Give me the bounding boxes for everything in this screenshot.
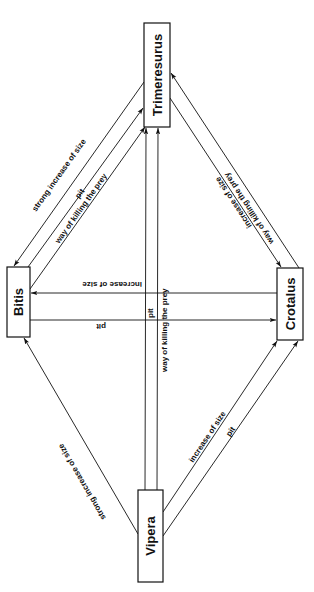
edge-trimeresurus-to-bitis-size	[14, 82, 144, 266]
label-crotalus-to-trimeresurus-kill: way of killing the prey	[222, 171, 276, 247]
label-vipera-to-crotalus-pit: pit	[224, 425, 237, 438]
label-crotalus-to-bitis-size: increase of size	[82, 280, 142, 289]
edge-bitis-to-trimeresurus-kill	[30, 127, 145, 289]
edge-vipera-to-bitis-size	[24, 338, 138, 534]
edge-vipera-to-trimeresurus-kill	[157, 128, 158, 490]
edge-crotalus-to-trimeresurus-kill	[171, 73, 299, 268]
node-bitis: Bitis	[7, 267, 30, 337]
label-bitis-to-crotalus-pit: pit	[96, 322, 106, 331]
node-label-crotalus: Crotalus	[283, 278, 298, 331]
node-trimeresurus: Trimeresurus	[144, 23, 170, 127]
node-crotalus: Crotalus	[277, 268, 303, 340]
edge-vipera-to-crotalus-size	[163, 341, 277, 512]
phylogeny-diagram: strong increase of size pit way of killi…	[0, 0, 314, 592]
label-vipera-to-trimeresurus-kill: way of killing the prey	[160, 288, 169, 373]
label-bitis-to-trimeresurus-kill: way of killing the prey	[53, 171, 110, 246]
node-label-bitis: Bitis	[11, 288, 26, 316]
label-vipera-to-trimeresurus-pit: pit	[146, 308, 155, 318]
node-label-trimeresurus: Trimeresurus	[150, 34, 165, 116]
node-label-vipera: Vipera	[143, 515, 158, 555]
label-vipera-to-crotalus-size: increase of size	[187, 409, 228, 464]
label-vipera-to-bitis-size: strong increase of size	[56, 442, 108, 522]
node-vipera: Vipera	[138, 490, 163, 582]
